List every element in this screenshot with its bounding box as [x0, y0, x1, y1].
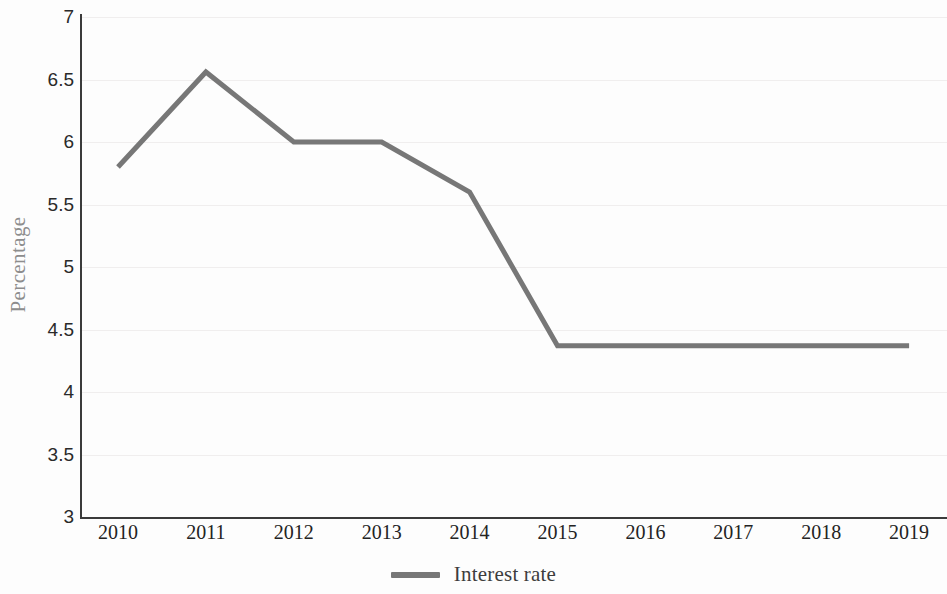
y-tick-label: 3 [12, 506, 74, 528]
x-tick-label: 2013 [337, 521, 427, 544]
y-tick-label: 3.5 [12, 444, 74, 466]
x-tick-label: 2014 [425, 521, 515, 544]
series-line-interest-rate [118, 72, 909, 346]
y-tick-label: 4 [12, 381, 74, 403]
line-chart: Percentage 76.565.554.543.53 20102011201… [0, 0, 947, 594]
y-tick-label: 6.5 [12, 69, 74, 91]
x-tick-label: 2010 [73, 521, 163, 544]
x-tick-label: 2012 [249, 521, 339, 544]
data-series-layer [81, 17, 947, 517]
x-tick-label: 2011 [161, 521, 251, 544]
plot-area [81, 17, 947, 517]
x-tick-label: 2017 [688, 521, 778, 544]
x-tick-label: 2016 [600, 521, 690, 544]
y-tick-label: 4.5 [12, 319, 74, 341]
y-axis-line [80, 14, 82, 519]
x-tick-label: 2019 [864, 521, 947, 544]
x-tick-label: 2015 [513, 521, 603, 544]
y-tick-label: 7 [12, 6, 74, 28]
y-tick-label: 5.5 [12, 194, 74, 216]
x-axis-line [80, 517, 947, 519]
y-tick-label: 6 [12, 131, 74, 153]
x-tick-label: 2018 [776, 521, 866, 544]
legend-line-swatch [391, 572, 440, 578]
y-tick-label: 5 [12, 256, 74, 278]
legend-label-interest-rate: Interest rate [454, 562, 556, 587]
y-axis-tick-labels: 76.565.554.543.53 [0, 0, 74, 594]
chart-legend: Interest rate [0, 562, 947, 587]
